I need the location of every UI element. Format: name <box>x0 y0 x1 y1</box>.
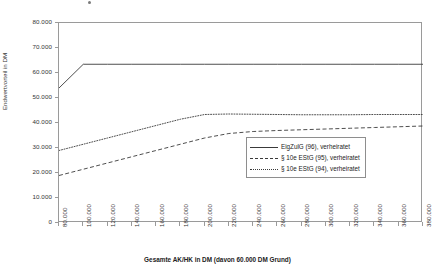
y-axis-tick-label: 30.000 <box>0 143 52 150</box>
x-axis-tick <box>276 222 277 226</box>
legend-item: EigZulG (96), verheiratet <box>250 141 360 152</box>
y-axis-tick-label: 80.000 <box>0 18 52 25</box>
x-axis-tick <box>58 222 59 226</box>
x-axis-title: Gesamte AK/HK in DM (davon 60.000 DM Gru… <box>0 256 435 263</box>
x-axis-tick <box>373 222 374 226</box>
legend-item: § 10e EStG (95), verheiratet <box>250 152 360 163</box>
x-axis-tick-label: 160.000 <box>158 204 165 227</box>
chart-screenshot: Endwertvorteil in DM 010.00020.00030.000… <box>0 0 435 270</box>
x-axis-tick-label: 260.000 <box>279 204 286 227</box>
x-axis-tick-label: 360.000 <box>400 204 407 227</box>
x-axis-tick-label: 340.000 <box>376 204 383 227</box>
x-axis-tick-label: 380.000 <box>425 204 432 227</box>
x-axis-tick <box>301 222 302 226</box>
y-axis-tick-label: 10.000 <box>0 193 52 200</box>
y-axis-tick-label: 50.000 <box>0 93 52 100</box>
x-axis-tick <box>422 222 423 226</box>
x-axis-tick-label: 180.000 <box>182 204 189 227</box>
x-axis-tick-label: 140.000 <box>133 204 140 227</box>
x-axis-tick <box>131 222 132 226</box>
legend-label: § 10e EStG (94), verheiratet <box>281 165 360 172</box>
series-line <box>59 126 423 176</box>
legend-swatch-dotted-icon <box>250 165 278 173</box>
legend-swatch-solid-icon <box>250 143 278 151</box>
x-axis-tick <box>179 222 180 226</box>
legend-swatch-dashed-icon <box>250 154 278 162</box>
x-axis-tick <box>155 222 156 226</box>
x-axis-tick-label: 220.000 <box>230 204 237 227</box>
x-axis-tick-label: 240.000 <box>255 204 262 227</box>
legend-label: § 10e EStG (95), verheiratet <box>281 154 360 161</box>
x-axis-tick-label: 80.000 <box>61 207 68 227</box>
x-axis-tick <box>398 222 399 226</box>
series-lines <box>59 23 423 223</box>
y-axis-tick-label: 0 <box>0 218 52 225</box>
x-axis-tick <box>82 222 83 226</box>
x-axis-tick <box>252 222 253 226</box>
legend-item: § 10e EStG (94), verheiratet <box>250 163 360 174</box>
x-axis-tick-label: 280.000 <box>303 204 310 227</box>
x-axis-tick <box>325 222 326 226</box>
plot-area <box>58 22 422 222</box>
x-axis-tick-label: 120.000 <box>109 204 116 227</box>
x-axis-tick-label: 320.000 <box>352 204 359 227</box>
series-line <box>59 64 423 88</box>
y-axis-tick-label: 60.000 <box>0 68 52 75</box>
x-axis-tick-label: 100.000 <box>85 204 92 227</box>
x-axis-tick-label: 200.000 <box>206 204 213 227</box>
legend-label: EigZulG (96), verheiratet <box>281 143 350 150</box>
x-axis-tick <box>228 222 229 226</box>
y-axis-tick-label: 40.000 <box>0 118 52 125</box>
x-axis-tick <box>107 222 108 226</box>
y-axis-tick-label: 20.000 <box>0 168 52 175</box>
chart-legend: EigZulG (96), verheiratet § 10e EStG (95… <box>246 137 366 178</box>
x-axis-tick <box>349 222 350 226</box>
x-axis-tick-label: 300.000 <box>327 204 334 227</box>
y-axis-tick-label: 70.000 <box>0 43 52 50</box>
x-axis-tick <box>204 222 205 226</box>
scan-artifact <box>88 1 91 4</box>
